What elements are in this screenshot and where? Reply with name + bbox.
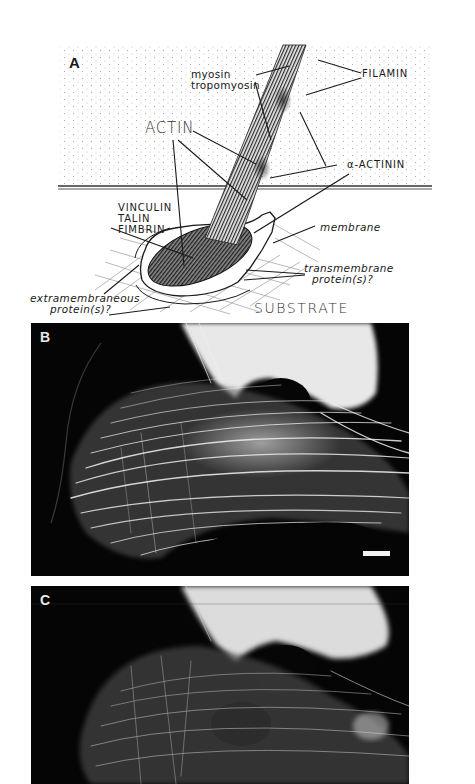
label-transmembrane-line1: transmembrane (304, 263, 394, 274)
label-tropomyosin: tropomyosin (191, 80, 260, 91)
label-membrane: membrane (320, 222, 381, 233)
label-filamin: FILAMIN (362, 69, 408, 79)
micrograph-c-image (31, 586, 409, 784)
panel-c-micrograph: C (31, 586, 409, 784)
label-vinculin: VINCULIN (118, 203, 172, 213)
label-substrate: SUBSTRATE (254, 301, 349, 315)
label-extramembraneous-line1: extramembraneous (30, 293, 140, 304)
label-talin: TALIN (118, 214, 150, 224)
panel-letter-b: B (40, 329, 50, 345)
label-myosin: myosin (191, 69, 231, 80)
panel-a-diagram: A myosin tropomyosin FILAMIN ACTIN α-ACT… (0, 0, 475, 320)
label-alpha-actinin: α-ACTININ (347, 160, 405, 170)
label-fimbrin: FIMBRIN (118, 225, 165, 235)
label-actin: ACTIN (145, 121, 194, 136)
label-transmembrane-line2: protein(s)? (312, 274, 373, 285)
micrograph-b-image (31, 323, 409, 576)
panel-letter-c: C (40, 592, 50, 608)
label-extramembraneous-line2: protein(s)? (50, 304, 111, 315)
scale-bar (363, 551, 390, 556)
panel-letter-a: A (69, 55, 80, 70)
panel-b-micrograph: B (31, 323, 409, 576)
